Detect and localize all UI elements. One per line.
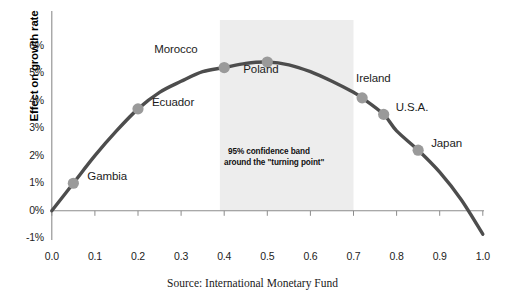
data-point-label: Japan (431, 137, 462, 149)
x-axis-tick-label: 0.6 (290, 250, 330, 262)
y-axis-tick-label: 6% (8, 39, 44, 51)
y-axis-tick-label: 2% (8, 149, 44, 161)
y-axis-tick-label: 1% (8, 176, 44, 188)
data-point-marker[interactable] (413, 145, 424, 156)
x-axis-tick-label: 0.0 (32, 250, 72, 262)
x-axis-tick-label: 0.5 (247, 250, 287, 262)
x-axis-tick-label: 0.7 (334, 250, 374, 262)
data-point-marker[interactable] (219, 62, 230, 73)
y-axis-tick-label: 5% (8, 66, 44, 78)
data-point-marker[interactable] (132, 103, 143, 114)
data-point-label: Ireland (356, 72, 390, 84)
data-point-label: Poland (243, 63, 278, 75)
x-axis-tick-label: 1.0 (463, 250, 503, 262)
data-point-marker[interactable] (357, 92, 368, 103)
data-point-label: U.S.A. (396, 101, 429, 113)
chart-canvas: Effect on growth rate 6%5%4%3%2%1%0%-1% … (0, 0, 505, 301)
x-axis-tick-label: 0.3 (161, 250, 201, 262)
x-axis-tick-label: 0.9 (420, 250, 460, 262)
x-axis-tick-label: 0.8 (377, 250, 417, 262)
y-axis-tick-label: 4% (8, 94, 44, 106)
data-point-label: Gambia (87, 170, 127, 182)
data-point-marker[interactable] (378, 109, 389, 120)
y-axis-tick-label: 3% (8, 121, 44, 133)
x-axis-ticks (52, 211, 483, 216)
y-axis-tick-label: -1% (8, 231, 44, 243)
confidence-band-note-line2: around the "turning point" (224, 158, 324, 167)
x-axis-tick-label: 0.4 (204, 250, 244, 262)
data-point-label: Ecuador (152, 96, 194, 108)
confidence-band (220, 20, 354, 211)
data-point-label: Morocco (154, 43, 197, 55)
source-caption: Source: International Monetary Fund (0, 277, 505, 289)
confidence-band-note-line1: 95% confidence band (228, 147, 310, 156)
x-axis-tick-label: 0.1 (75, 250, 115, 262)
data-point-marker[interactable] (68, 178, 79, 189)
x-axis-tick-label: 0.2 (118, 250, 158, 262)
y-axis-tick-label: 0% (8, 204, 44, 216)
